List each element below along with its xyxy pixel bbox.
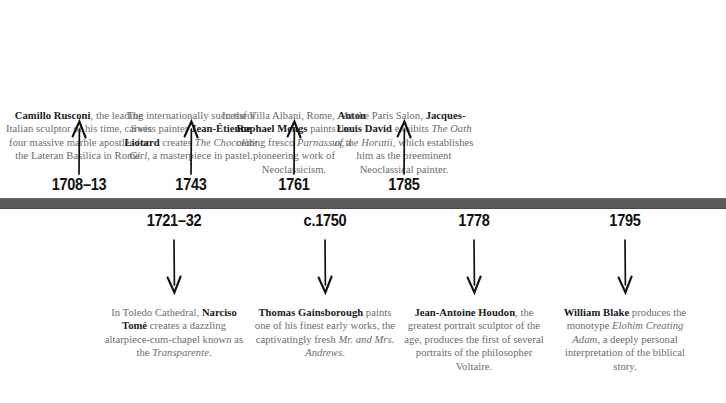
event-description: Thomas Gainsborough paints one of his fi… xyxy=(252,306,398,394)
timeline-event-below: 1778 Jean-Antoine Houdon, the greatest p… xyxy=(401,211,547,396)
arrow-down-icon xyxy=(252,239,398,294)
event-year: 1785 xyxy=(340,175,468,197)
arrow-down-icon xyxy=(401,239,547,294)
arrow-down-icon xyxy=(101,239,247,294)
event-year: 1778 xyxy=(410,211,538,233)
event-description: In Toledo Cathedral, Narciso Tomé create… xyxy=(101,306,247,394)
arrow-up-icon xyxy=(331,120,477,175)
event-year: 1721–32 xyxy=(110,211,238,233)
timeline-event-below: c.1750 Thomas Gainsborough paints one of… xyxy=(252,211,398,396)
timeline-figure: Camillo Rusconi, the leading Italian scu… xyxy=(0,0,726,403)
timeline-event-above: At the Paris Salon, Jacques-Louis David … xyxy=(331,14,477,197)
event-description: William Blake produces the monotype Eloh… xyxy=(552,306,698,394)
event-year: c.1750 xyxy=(261,211,389,233)
timeline-event-below: 1721–32 In Toledo Cathedral, Narciso Tom… xyxy=(101,211,247,396)
event-description: Jean-Antoine Houdon, the greatest portra… xyxy=(401,306,547,394)
timeline-bar xyxy=(0,198,726,209)
timeline-event-below: 1795 William Blake produces the monotype… xyxy=(552,211,698,396)
arrow-down-icon xyxy=(552,239,698,294)
event-year: 1795 xyxy=(561,211,689,233)
